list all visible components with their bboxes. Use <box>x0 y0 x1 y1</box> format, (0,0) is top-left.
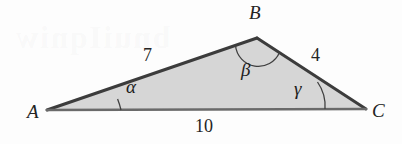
side-label-ab: 7 <box>143 46 152 64</box>
vertex-label-a: A <box>27 102 39 121</box>
side-label-ac: 10 <box>195 117 213 135</box>
triangle-edge-ac <box>47 109 366 110</box>
vertex-label-c: C <box>372 101 385 120</box>
vertex-label-b: B <box>249 3 261 22</box>
figure-canvas: bnuiIqniw A B C 7 4 10 α β γ <box>0 0 402 144</box>
angle-label-beta: β <box>241 60 250 79</box>
angle-label-gamma: γ <box>294 79 302 98</box>
angle-label-alpha: α <box>126 77 136 96</box>
side-label-bc: 4 <box>311 46 320 64</box>
